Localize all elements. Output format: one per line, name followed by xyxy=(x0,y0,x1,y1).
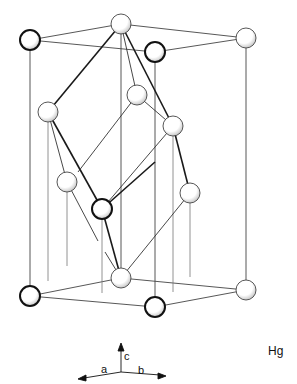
axis-label-a: a xyxy=(101,363,108,375)
axis-indicator xyxy=(78,343,166,381)
structure-title: Hg xyxy=(268,344,283,358)
atom-bottom-right-front xyxy=(145,297,165,317)
axis-label-b: b xyxy=(138,364,144,376)
atom-top-back xyxy=(111,14,131,34)
axis-label-c: c xyxy=(124,350,130,362)
atom-lower-left xyxy=(57,172,77,192)
projection-lines xyxy=(48,122,190,293)
atom-upper-inner xyxy=(127,85,147,105)
atom-top-right-back xyxy=(236,28,256,48)
atom-lower-center xyxy=(92,199,112,219)
atom-top-left-front xyxy=(20,30,40,50)
atom-bottom-left-front xyxy=(20,286,40,306)
atom-bottom-back xyxy=(111,268,131,288)
b-axis-arrow-icon xyxy=(158,373,166,379)
atom-upper-left xyxy=(38,102,58,122)
front-bonds xyxy=(48,24,190,278)
atom-top-right-front xyxy=(145,42,165,62)
hg-crystal-structure-diagram: c a b Hg xyxy=(0,0,297,384)
a-axis-arrow-icon xyxy=(78,375,86,381)
atom-upper-right xyxy=(163,116,183,136)
atoms xyxy=(20,14,256,317)
atom-lower-right xyxy=(180,183,200,203)
atom-bottom-right-back xyxy=(236,280,256,300)
